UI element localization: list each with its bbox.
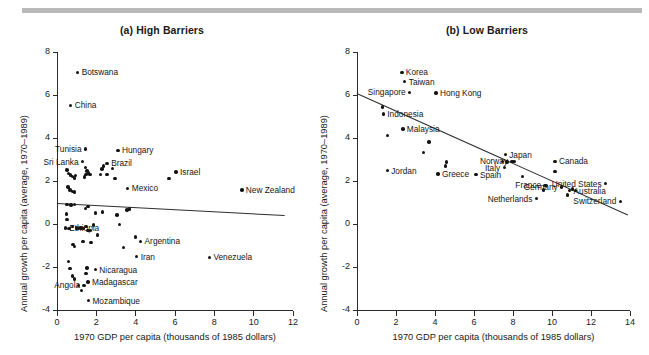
point-label: Japan <box>509 150 532 160</box>
x-tick <box>293 311 294 316</box>
y-tick <box>53 181 58 182</box>
data-point <box>81 240 84 243</box>
data-point <box>116 149 119 152</box>
data-point <box>512 160 515 163</box>
x-tick-label: 0 <box>45 317 69 327</box>
data-point <box>505 160 508 163</box>
trend-line <box>57 203 285 216</box>
data-point <box>401 127 404 130</box>
data-point <box>73 203 76 206</box>
x-tick <box>175 311 176 316</box>
x-tick <box>253 311 254 316</box>
data-point <box>67 260 70 263</box>
x-tick-label: 8 <box>501 317 525 327</box>
data-point <box>82 284 85 287</box>
x-tick-label: 8 <box>202 317 226 327</box>
data-point <box>86 205 89 208</box>
y-tick-label: 2 <box>28 175 50 185</box>
data-point <box>102 164 105 167</box>
data-point <box>139 240 142 243</box>
data-point <box>619 200 622 203</box>
data-point <box>65 203 68 206</box>
data-point <box>77 284 80 287</box>
y-tick-label: 4 <box>328 132 350 142</box>
data-point <box>105 173 108 176</box>
data-point <box>100 167 103 170</box>
y-tick <box>53 95 58 96</box>
data-point <box>73 190 76 193</box>
y-tick-label: -2 <box>28 261 50 271</box>
data-point <box>118 223 121 226</box>
x-tick <box>435 311 436 316</box>
data-point <box>73 277 76 280</box>
data-point <box>501 160 504 163</box>
y-tick-label: 6 <box>28 89 50 99</box>
data-point <box>81 160 84 163</box>
data-point <box>76 71 79 74</box>
x-tick-label: 4 <box>124 317 148 327</box>
x-tick-label: 14 <box>618 317 642 327</box>
y-tick-label: 8 <box>328 46 350 56</box>
x-tick-label: 6 <box>163 317 187 327</box>
x-tick <box>396 311 397 316</box>
y-tick <box>353 52 358 53</box>
x-tick <box>96 311 97 316</box>
x-tick <box>357 311 358 316</box>
point-label: Hong Kong <box>440 88 482 98</box>
point-label: Argentina <box>145 236 181 246</box>
data-point <box>553 160 556 163</box>
data-point <box>65 218 68 221</box>
data-point <box>503 166 506 169</box>
data-point <box>74 174 77 177</box>
data-point <box>99 173 102 176</box>
point-label: New Zealand <box>246 185 295 195</box>
y-tick-label: 2 <box>328 175 350 185</box>
data-point <box>208 256 211 259</box>
x-tick-label: 2 <box>84 317 108 327</box>
point-label: Malaysia <box>407 124 440 134</box>
y-tick-label: 4 <box>28 132 50 142</box>
data-point <box>92 223 95 226</box>
x-tick <box>214 311 215 316</box>
data-point <box>240 188 243 191</box>
data-point <box>553 170 556 173</box>
data-point <box>65 212 68 215</box>
y-tick-label: -4 <box>328 304 350 314</box>
y-tick <box>353 224 358 225</box>
y-tick <box>53 52 58 53</box>
point-label: Indonesia <box>387 109 423 119</box>
data-point <box>427 140 430 143</box>
point-label: Sri Lanka <box>0 157 79 167</box>
point-label: Madagascar <box>92 277 138 287</box>
data-point <box>113 177 116 180</box>
point-label: Angola <box>0 280 80 290</box>
x-tick <box>591 311 592 316</box>
point-label: Botswana <box>82 67 118 77</box>
chart-panel-low-barriers: (b) Low Barriers -4-20246802468101214197… <box>325 0 649 355</box>
data-point <box>115 213 118 216</box>
data-point <box>84 272 87 275</box>
data-point <box>167 177 170 180</box>
data-point <box>408 91 411 94</box>
x-axis-label: 1970 GDP per capita (thousands of 1985 d… <box>347 332 640 342</box>
data-point <box>434 91 437 94</box>
panel-a-title: (a) High Barriers <box>0 24 324 36</box>
x-tick-label: 6 <box>462 317 486 327</box>
x-tick-label: 4 <box>423 317 447 327</box>
data-point <box>89 241 92 244</box>
data-point <box>68 267 71 270</box>
y-tick <box>353 181 358 182</box>
y-tick <box>353 267 358 268</box>
data-point <box>436 172 439 175</box>
point-label: Brazil <box>111 158 132 168</box>
data-point <box>69 104 72 107</box>
y-tick <box>353 138 358 139</box>
x-tick <box>57 311 58 316</box>
x-tick <box>630 311 631 316</box>
x-tick <box>513 311 514 316</box>
y-tick <box>53 138 58 139</box>
y-tick-label: 0 <box>328 218 350 228</box>
y-tick-label: -2 <box>328 261 350 271</box>
point-label: Israel <box>180 167 200 177</box>
data-point <box>73 245 76 248</box>
